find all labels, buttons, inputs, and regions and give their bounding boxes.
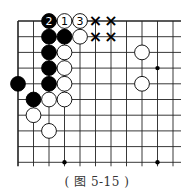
black-stone bbox=[57, 29, 72, 44]
white-stone bbox=[57, 76, 72, 91]
go-board: ×××× 213 bbox=[0, 0, 194, 170]
black-stone bbox=[42, 29, 57, 44]
white-stone bbox=[26, 108, 41, 123]
black-stone bbox=[42, 45, 57, 60]
move-number: 1 bbox=[61, 15, 68, 28]
move-number: 3 bbox=[77, 15, 84, 28]
black-stone bbox=[42, 61, 57, 76]
x-mark-icon: × bbox=[104, 27, 117, 46]
x-marks: ×××× bbox=[89, 11, 118, 46]
white-stone bbox=[42, 92, 57, 107]
white-stone bbox=[42, 123, 57, 138]
white-stone bbox=[135, 45, 150, 60]
black-stone: 2 bbox=[42, 14, 57, 29]
white-stone bbox=[57, 61, 72, 76]
x-mark-icon: × bbox=[89, 27, 102, 46]
black-stone bbox=[42, 76, 57, 91]
star-point bbox=[155, 160, 159, 164]
white-stone bbox=[73, 29, 88, 44]
white-stone bbox=[57, 92, 72, 107]
white-stone: 1 bbox=[57, 14, 72, 29]
white-stone bbox=[135, 76, 150, 91]
star-point bbox=[155, 66, 159, 70]
move-number: 2 bbox=[46, 15, 53, 28]
white-stone bbox=[57, 45, 72, 60]
white-stone: 3 bbox=[73, 14, 88, 29]
figure-caption: ( 图 5-15 ) bbox=[0, 172, 194, 189]
black-stone bbox=[26, 92, 41, 107]
star-point bbox=[62, 160, 66, 164]
black-stone bbox=[11, 76, 26, 91]
